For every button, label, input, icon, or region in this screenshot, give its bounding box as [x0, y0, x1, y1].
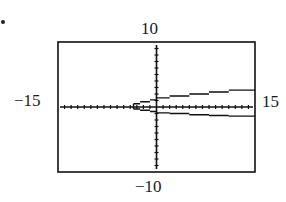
curve-branch-2 — [134, 109, 255, 117]
curve-branch-1 — [134, 88, 255, 104]
graph-window — [0, 0, 286, 202]
